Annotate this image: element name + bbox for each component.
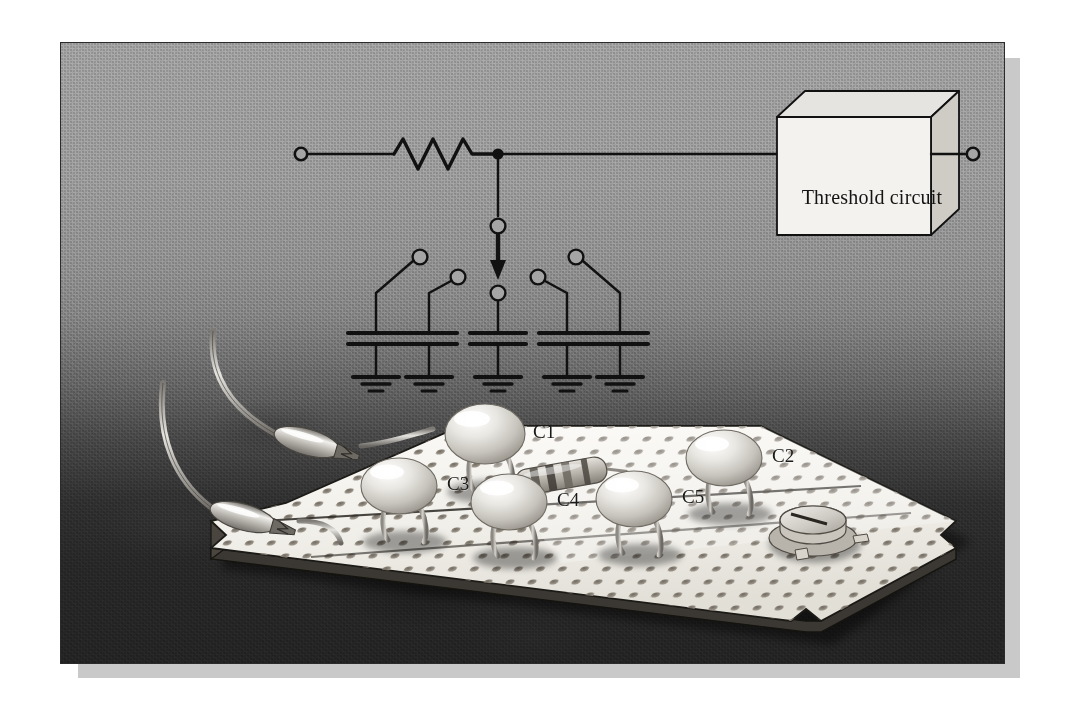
schematic-capacitor-1 <box>348 333 404 391</box>
switch-pole-lower <box>491 286 506 301</box>
illustration-panel: Threshold circuit C1 C2 C3 C4 C5 <box>60 42 1005 664</box>
output-terminal-circle <box>967 148 979 160</box>
schematic-capacitor-5 <box>592 333 648 391</box>
cap-C2-body <box>686 430 762 486</box>
threshold-box-face <box>777 117 931 235</box>
threshold-box-side <box>931 91 959 235</box>
pot-pin-right <box>853 534 869 543</box>
cap-C5-body <box>596 471 672 527</box>
cap-C3-body <box>361 458 437 514</box>
contact-lead-1 <box>376 261 413 333</box>
cap-C1-body <box>445 404 525 464</box>
input-terminal-circle <box>295 148 307 160</box>
switch-pole-upper <box>491 219 506 234</box>
schematic-capacitor-4 <box>539 333 595 391</box>
threshold-circuit-box[interactable] <box>777 91 959 235</box>
cap-C4-body <box>471 474 547 530</box>
schematic-capacitor-2 <box>401 333 457 391</box>
alligator-lead-lower <box>162 383 341 544</box>
switch-contact-2 <box>451 270 466 285</box>
wiper-arrowhead <box>490 260 506 280</box>
capacitor-bank <box>348 333 648 391</box>
switch-contact-1 <box>413 250 428 265</box>
clip-body-upper <box>271 420 344 464</box>
contact-lead-4 <box>583 261 620 333</box>
switch-contact-4 <box>569 250 584 265</box>
rotary-switch[interactable] <box>376 154 620 333</box>
pot-pin-front <box>795 548 809 560</box>
contact-lead-3 <box>545 281 567 333</box>
schematic-and-photo-artwork <box>61 43 1004 663</box>
resistor-zigzag <box>394 139 499 169</box>
main-signal-wire <box>309 139 777 169</box>
switch-contact-3 <box>531 270 546 285</box>
schematic-capacitor-3 <box>470 333 526 391</box>
figure-stage: Threshold circuit C1 C2 C3 C4 C5 <box>0 0 1067 717</box>
contact-lead-2 <box>429 281 451 333</box>
threshold-box-top <box>777 91 959 117</box>
alligator-lead-upper <box>212 331 433 469</box>
